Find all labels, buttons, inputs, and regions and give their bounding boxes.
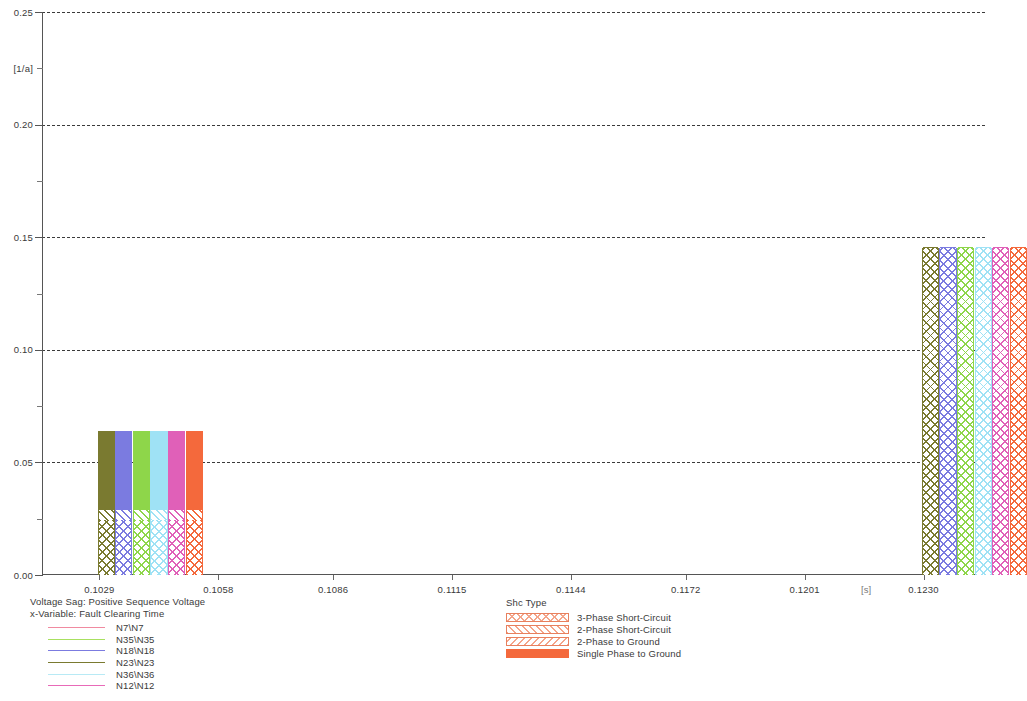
x-axis-tick-label: 0.1230 [908,584,938,595]
x-axis-tick-label: 0.1201 [789,584,819,595]
series-legend-item[interactable]: N36\N36 [30,668,290,680]
bar-group [922,12,1027,575]
shc-type-legend-label: 2-Phase Short-Circuit [577,624,671,635]
y-axis-unit-label: [1/a] [14,63,34,74]
shc-type-legend-item[interactable]: 2-Phase Short-Circuit [506,623,766,635]
bar-segment [187,520,202,575]
y-axis-tick [35,237,43,238]
x-axis-tick [571,575,572,580]
x-axis-tick [686,575,687,580]
bar-segment [134,431,149,510]
shc-type-legend-item[interactable]: 3-Phase Short-Circuit [506,611,766,623]
bar-segment [993,248,1008,575]
y-axis-minor-tick [37,68,43,69]
series-legend-list: N7\N7N35\N35N18\N18N23\N23N36\N36N12\N12 [30,622,290,692]
x-axis-tick-label: 0.1144 [556,584,586,595]
y-axis-minor-tick [37,181,43,182]
shc-type-legend: Shc Type 3-Phase Short-Circuit2-Phase Sh… [506,597,766,660]
chart-canvas [42,12,985,575]
bar[interactable] [115,431,132,575]
bar[interactable] [939,248,956,575]
bar-segment [169,510,184,520]
y-axis-tick-label: 0.15 [14,232,33,243]
series-color-swatch [48,650,105,651]
y-axis-tick [35,125,43,126]
bar-segment [923,248,938,575]
x-axis-unit-label: [s] [861,584,871,595]
bar-segment-divider [1011,247,1026,248]
y-axis-tick-label: 0.10 [14,344,33,355]
bar[interactable] [168,431,185,575]
x-axis-tick [452,575,453,580]
bar[interactable] [150,431,167,575]
shc-type-legend-label: 3-Phase Short-Circuit [577,612,671,623]
bar-segment [169,431,184,510]
x-axis-tick [924,575,925,580]
bar[interactable] [992,248,1009,575]
bar-segment-divider [940,247,955,248]
series-legend-item[interactable]: N23\N23 [30,657,290,669]
series-legend-label: N7\N7 [116,622,144,633]
bar[interactable] [922,248,939,575]
bar-segment [1011,248,1026,575]
bar-segment [99,431,114,510]
bar-segment [151,520,166,575]
bar-segment [99,510,114,520]
bar[interactable] [133,431,150,575]
series-legend: Voltage Sag: Positive Sequence Voltage x… [30,596,290,692]
bar-segment [116,520,131,575]
bar-segment [187,431,202,510]
bar-segment [116,510,131,520]
bar-segment [99,520,114,575]
series-color-swatch [48,674,105,675]
chart-title: Voltage Sag: Positive Sequence Voltage [30,596,290,608]
series-color-swatch [48,662,105,663]
series-legend-label: N35\N35 [116,634,155,645]
bar[interactable] [98,431,115,575]
y-axis-tick [35,462,43,463]
x-axis-tick-label: 0.1086 [318,584,348,595]
y-axis-minor-tick [37,406,43,407]
x-axis-tick [333,575,334,580]
bar[interactable] [186,431,203,575]
bar[interactable] [957,248,974,575]
shc-type-pattern-swatch [506,649,569,658]
bar-segment [116,431,131,510]
shc-type-legend-label: Single Phase to Ground [577,648,681,659]
bar[interactable] [975,248,992,575]
bar-segment [151,510,166,520]
y-axis-tick [35,350,43,351]
series-color-swatch [48,685,105,686]
shc-type-legend-item[interactable]: Single Phase to Ground [506,648,766,660]
shc-type-legend-list: 3-Phase Short-Circuit2-Phase Short-Circu… [506,611,766,660]
x-axis-tick-label: 0.1172 [671,584,701,595]
bar-segment [940,248,955,575]
bar-segment-divider [976,247,991,248]
bar-segment [187,510,202,520]
chart-plot-area [42,12,985,575]
shc-type-legend-title: Shc Type [506,597,766,608]
series-legend-item[interactable]: N18\N18 [30,645,290,657]
shc-type-pattern-swatch [506,613,569,622]
shc-type-legend-item[interactable]: 2-Phase to Ground [506,635,766,647]
bar-segment [958,248,973,575]
y-axis-tick [35,575,43,576]
x-axis-tick-label: 0.1058 [203,584,233,595]
series-legend-item[interactable]: N12\N12 [30,680,290,692]
y-axis-tick-label: 0.05 [14,457,33,468]
shc-type-legend-label: 2-Phase to Ground [577,636,660,647]
series-legend-item[interactable]: N7\N7 [30,622,290,634]
shc-type-pattern-swatch [506,625,569,634]
x-axis-tick [218,575,219,580]
bar-segment [151,431,166,510]
series-legend-item[interactable]: N35\N35 [30,634,290,646]
bar[interactable] [1010,248,1027,575]
bar-segment [976,248,991,575]
chart-subtitle: x-Variable: Fault Clearing Time [30,608,290,620]
y-axis-tick [35,12,43,13]
bar-segment-divider [958,247,973,248]
y-axis-minor-tick [37,519,43,520]
y-axis-tick-label: 0.25 [14,7,33,18]
bar-segment [134,510,149,520]
x-axis-tick [805,575,806,580]
